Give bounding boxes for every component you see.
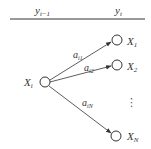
vertical-ellipsis: ⋮ [126,96,137,109]
edge-label-in: aiN [82,97,94,109]
header-label-prev: yt−1 [34,4,50,18]
target-node-x2-circle [112,60,122,70]
edge-label-i1: ai1 [73,49,83,61]
target-node-xn-label: XN [126,130,139,144]
header-label-current: yt [114,4,123,18]
target-node-x2-label: X2 [126,60,138,74]
source-node-circle [40,77,50,87]
target-node-x1-label: X1 [126,35,137,49]
edge-label-i2: ai2 [84,62,94,74]
transition-diagram: yt−1 yt Xi ai1 ai2 aiN X1 X2 ⋮ XN [0,0,151,149]
source-node-label: Xi [23,76,33,90]
edge-to-xn [49,86,111,133]
target-node-xn-circle [111,131,121,141]
target-node-x1-circle [112,35,122,45]
